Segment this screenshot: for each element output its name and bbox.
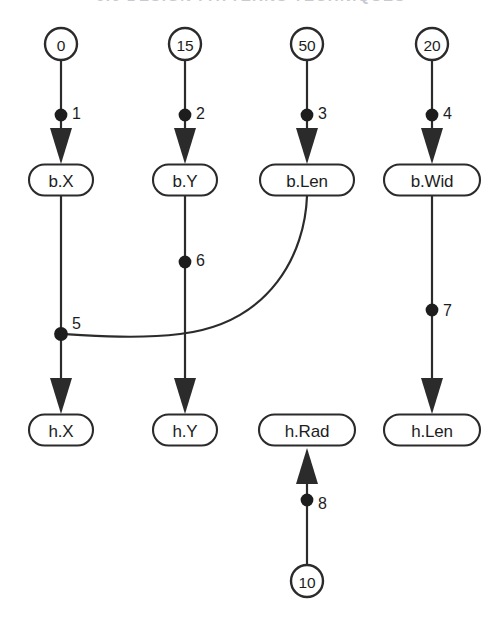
edge-label-8: 8 (318, 495, 327, 512)
variable-node-h-y[interactable]: h.Y (153, 415, 217, 446)
edge-label-6: 6 (196, 252, 205, 269)
constant-node-label: 20 (423, 37, 441, 54)
edge-dot-4 (426, 109, 439, 122)
variable-node-b-len[interactable]: b.Len (260, 165, 354, 196)
variable-node-label: b.Len (286, 172, 328, 191)
variable-node-h-len[interactable]: h.Len (384, 415, 480, 446)
edge-junction-5: 5 (54, 315, 81, 341)
edge-label-3: 3 (318, 105, 327, 122)
figure-root: 6.6 DESIGN PATTERNS TECHNIQUES 1 2 3 (0, 0, 502, 625)
dependency-diagram: 1 2 3 4 6 (0, 0, 502, 625)
arrow-head-7 (421, 378, 443, 414)
variable-node-b-wid[interactable]: b.Wid (384, 165, 480, 196)
variable-node-b-y[interactable]: b.Y (153, 165, 217, 196)
variable-node-h-rad[interactable]: h.Rad (259, 415, 355, 446)
arrow-head-8 (296, 448, 318, 484)
edge-label-2: 2 (196, 105, 205, 122)
constant-node-20[interactable]: 20 (416, 28, 448, 60)
edge-label-1: 1 (72, 105, 81, 122)
edge-group-3: 3 (296, 60, 327, 164)
variable-node-h-x[interactable]: h.X (29, 415, 93, 446)
constant-node-15[interactable]: 15 (169, 28, 201, 60)
edge-group-5 (50, 196, 72, 414)
variable-node-label: b.Wid (411, 172, 453, 191)
arrow-head-1 (50, 128, 72, 164)
constant-node-0[interactable]: 0 (45, 28, 77, 60)
edge-group-7: 7 (421, 196, 452, 414)
edge-label-4: 4 (443, 105, 452, 122)
page-header-strip: 6.6 DESIGN PATTERNS TECHNIQUES (0, 0, 502, 13)
edge-dot-3 (301, 109, 314, 122)
edge-group-1: 1 (50, 60, 81, 164)
variable-node-label: h.X (49, 422, 74, 441)
arrow-head-4 (421, 128, 443, 164)
constant-node-50[interactable]: 50 (291, 28, 323, 60)
variable-node-label: b.Y (173, 172, 198, 191)
edge-group-2: 2 (174, 60, 205, 164)
arrow-head-5 (50, 378, 72, 414)
edge-group-8: 8 (296, 448, 327, 565)
edge-dot-5 (54, 327, 68, 341)
variable-node-b-x[interactable]: b.X (29, 165, 93, 196)
arrow-head-2 (174, 128, 196, 164)
constant-node-10[interactable]: 10 (291, 565, 323, 597)
variable-node-label: b.X (49, 172, 74, 191)
variable-node-label: h.Rad (285, 422, 329, 441)
edge-group-4: 4 (421, 60, 452, 164)
page-header-text: 6.6 DESIGN PATTERNS TECHNIQUES (0, 0, 502, 4)
variable-node-label: h.Len (411, 422, 453, 441)
arrow-head-6 (174, 378, 196, 414)
arrow-head-3 (296, 128, 318, 164)
edge-dot-6 (179, 256, 192, 269)
constant-node-label: 10 (298, 574, 316, 591)
constant-node-label: 50 (298, 37, 316, 54)
constant-node-label: 0 (57, 37, 66, 54)
edge-dot-7 (426, 304, 439, 317)
edge-label-7: 7 (443, 302, 452, 319)
variable-node-label: h.Y (173, 422, 198, 441)
constant-node-label: 15 (176, 37, 193, 54)
edge-dot-2 (179, 109, 192, 122)
edge-label-5: 5 (72, 315, 81, 332)
edge-dot-1 (55, 109, 68, 122)
edge-group-6: 6 (174, 196, 205, 414)
edge-dot-8 (301, 494, 314, 507)
